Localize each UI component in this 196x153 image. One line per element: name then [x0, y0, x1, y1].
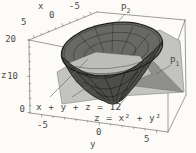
y-axis-label: y — [90, 139, 96, 149]
x-axis-label: x — [38, 1, 44, 11]
z-tick-10: 10 — [7, 71, 18, 81]
point-label-p2: P2 — [121, 3, 130, 15]
paraboloid-equation-label: z = x² + y² — [94, 112, 161, 123]
box-edge-top-back — [97, 12, 185, 20]
y-tick-0: 0 — [96, 127, 101, 137]
box-edge-bottom-back-right — [168, 95, 186, 132]
x-tick-0: 0 — [49, 10, 54, 20]
z-tick-0: 0 — [20, 104, 25, 114]
y-tick-neg5: -5 — [37, 120, 48, 130]
z-axis-label: z — [1, 70, 6, 80]
x-tick-5: 5 — [21, 17, 26, 27]
z-tick-20: 20 — [5, 34, 16, 44]
figure-canvas: x 5 0 -5 z 20 10 0 y -5 0 5 x + y + z = … — [0, 0, 196, 153]
box-edge-back-right-vertical — [185, 20, 186, 95]
y-tick-5: 5 — [144, 134, 149, 144]
plane-equation-label: x + y + z = 12 — [36, 101, 122, 112]
x-tick-neg5: -5 — [69, 1, 80, 11]
